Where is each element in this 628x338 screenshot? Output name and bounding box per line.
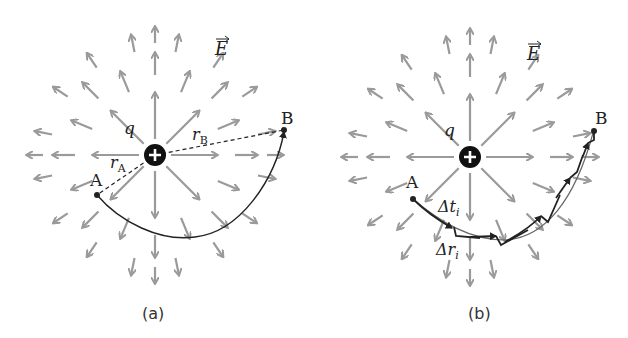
field-arrow xyxy=(533,183,553,191)
panel-a: q E A B rA rB (a) xyxy=(27,27,294,323)
field-arrow xyxy=(83,83,99,99)
field-arrow xyxy=(121,72,129,92)
field-arrow xyxy=(212,83,228,99)
point-b-label: B xyxy=(595,108,608,128)
field-label: E xyxy=(526,41,541,64)
radius-a-label: rA xyxy=(110,153,127,175)
field-arrow xyxy=(557,215,571,224)
field-arrow xyxy=(369,89,383,98)
point-b xyxy=(591,128,597,134)
field-arrow xyxy=(369,215,383,224)
field-arrow xyxy=(212,212,228,228)
field-arrow xyxy=(350,177,367,180)
field-arrow xyxy=(436,74,444,94)
charge-label: q xyxy=(124,118,135,138)
field-arrow xyxy=(446,260,449,277)
point-a-label: A xyxy=(405,172,419,192)
field-arrow xyxy=(35,131,52,134)
charge-label: q xyxy=(444,120,455,140)
field-arrow xyxy=(83,212,99,228)
field-arrow xyxy=(350,133,367,136)
field-arrow xyxy=(54,87,68,96)
field-arrow xyxy=(398,85,414,101)
charge xyxy=(459,146,481,168)
field-arrow xyxy=(481,113,514,146)
caption-b: (b) xyxy=(468,304,491,323)
field-arrow xyxy=(398,214,414,230)
field-arrow xyxy=(402,56,411,70)
field-arrow xyxy=(533,123,553,131)
field-arrow xyxy=(426,168,459,201)
field-arrow xyxy=(387,183,407,191)
field-arrow xyxy=(35,175,52,178)
field-arrow xyxy=(387,123,407,131)
field-arrow xyxy=(131,35,134,52)
field-arrow xyxy=(402,244,411,258)
field-arrow xyxy=(87,54,96,68)
point-a-label: A xyxy=(89,170,103,190)
field-label: E xyxy=(214,36,229,59)
field-arrow xyxy=(218,181,238,189)
field-arrow xyxy=(213,242,222,256)
point-a xyxy=(410,196,416,202)
field-arrow xyxy=(218,121,238,129)
caption-a: (a) xyxy=(142,304,164,323)
field-arrow xyxy=(131,258,134,275)
radius-b-label: rB xyxy=(192,125,208,147)
field-arrow xyxy=(481,168,514,201)
charge xyxy=(144,144,166,166)
field-arrow xyxy=(175,35,178,52)
field-arrow xyxy=(242,87,256,96)
field-arrow xyxy=(527,85,543,101)
field-arrow xyxy=(258,175,275,178)
field-arrow xyxy=(528,244,537,258)
delta-r-label: Δri xyxy=(435,240,459,262)
field-arrow xyxy=(175,258,178,275)
panel-b: q E A B Δti Δri (b) xyxy=(342,29,608,323)
field-arrow xyxy=(490,37,493,54)
field-arrow xyxy=(557,89,571,98)
field-arrow xyxy=(72,121,92,129)
field-arrow xyxy=(181,218,189,238)
field-arrow xyxy=(446,37,449,54)
point-a xyxy=(94,192,100,198)
field-arrow xyxy=(87,242,96,256)
point-b-label: B xyxy=(281,108,294,128)
electric-field-diagram: q E A B rA rB (a) q xyxy=(0,0,628,338)
field-arrow xyxy=(54,213,68,222)
field-arrow xyxy=(496,74,504,94)
delta-t-label: Δti xyxy=(437,197,460,219)
field-arrow xyxy=(490,260,493,277)
field-arrow xyxy=(166,166,199,199)
field-arrow xyxy=(573,133,590,136)
field-arrow xyxy=(181,72,189,92)
field-arrow xyxy=(242,213,256,222)
